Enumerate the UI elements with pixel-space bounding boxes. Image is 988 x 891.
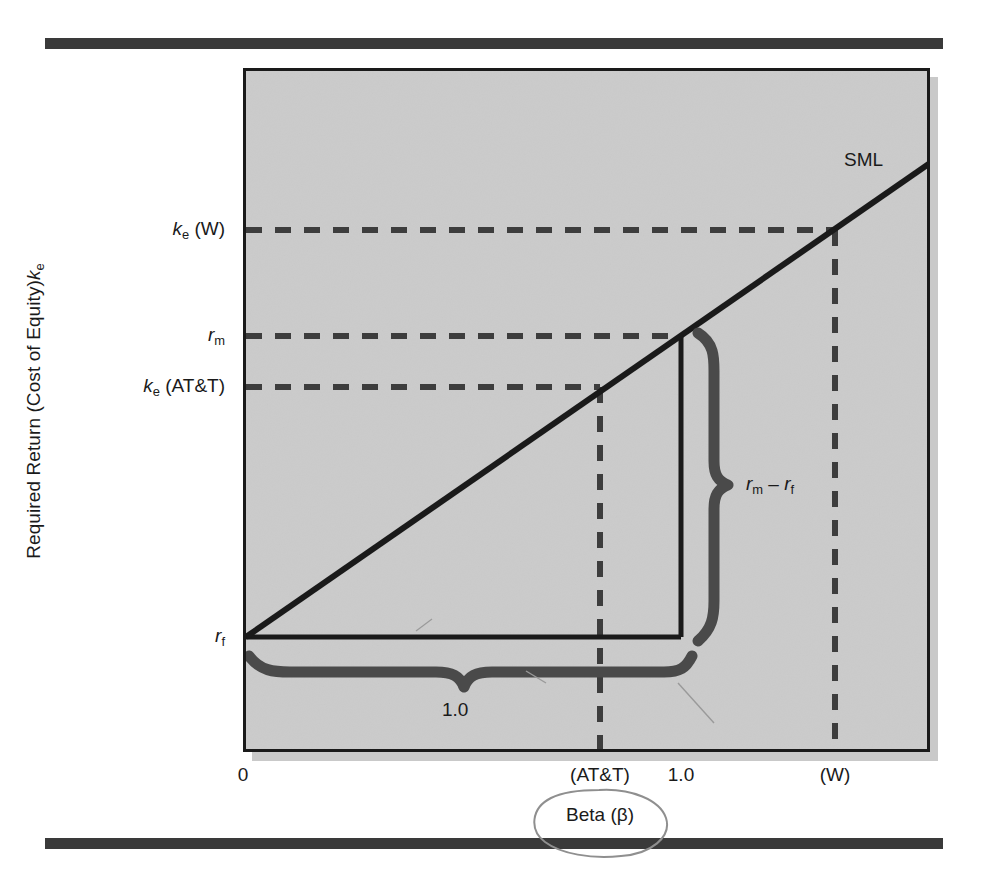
x-tick-zero: 0	[213, 765, 273, 784]
x-tick-att: (AT&T)	[540, 765, 660, 784]
beta-one-brace-label: 1.0	[442, 699, 468, 721]
y-tick-ke-att: ke (AT&T)	[40, 376, 225, 395]
sml-label: SML	[844, 149, 883, 171]
y-axis-title-symbol-sub: e	[32, 263, 47, 270]
market-premium-label-rf: r	[784, 473, 790, 494]
y-tick-ke-w: ke (W)	[40, 219, 225, 238]
y-tick-ke-att-suffix: (AT&T)	[160, 375, 225, 396]
y-axis-title: Required Return (Cost of Equity)ke	[23, 181, 45, 641]
panel-grain	[246, 71, 927, 749]
y-tick-ke-w-symbol: k	[172, 218, 182, 239]
y-tick-ke-att-symbol: k	[143, 375, 153, 396]
market-premium-label: rm – rf	[746, 473, 794, 495]
y-axis-title-text: Required Return (Cost of Equity)	[23, 280, 44, 559]
x-tick-one: 1.0	[651, 765, 711, 784]
market-premium-label-rm-sub: m	[752, 482, 763, 497]
sml-figure: Required Return (Cost of Equity)ke ke (W…	[0, 0, 988, 891]
y-tick-rf-sub: f	[221, 634, 225, 649]
plot-canvas	[246, 71, 927, 749]
y-tick-rm-sub: m	[214, 333, 225, 348]
plot-panel: SML rm – rf 1.0	[243, 68, 930, 752]
y-tick-ke-w-suffix: (W)	[189, 218, 225, 239]
market-premium-label-rf-sub: f	[791, 482, 795, 497]
market-premium-label-minus: –	[763, 473, 784, 494]
y-axis-title-symbol: k	[23, 270, 44, 280]
x-tick-w: (W)	[790, 765, 880, 784]
y-tick-ke-att-sub: e	[153, 384, 160, 399]
y-tick-rf: rf	[40, 626, 225, 645]
x-axis-title: Beta (β)	[540, 804, 660, 826]
y-tick-ke-w-sub: e	[182, 227, 189, 242]
y-tick-rm: rm	[40, 325, 225, 344]
